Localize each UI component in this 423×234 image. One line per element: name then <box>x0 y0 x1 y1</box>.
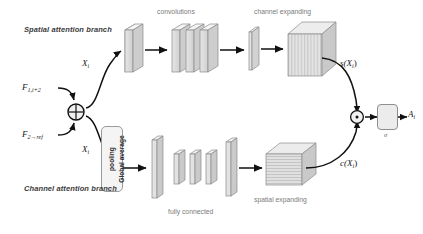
caption-convolutions: convolutions <box>157 8 195 15</box>
arrow-input-top <box>58 88 74 100</box>
spatial-output-head: s(X <box>340 58 352 68</box>
input-top-label: F1,i+2 <box>22 82 41 93</box>
spatial-expanded-box <box>266 143 316 185</box>
output-sub: i <box>414 114 416 120</box>
sum-node-glyph <box>68 104 84 120</box>
spatial-conv-slab-stack <box>172 24 218 72</box>
sigmoid-label: σ <box>384 131 387 138</box>
signal-x-bottom-label: Xi <box>82 144 89 155</box>
caption-spatial-expanding: spatial expanding <box>254 196 307 203</box>
channel-output-tail: ) <box>354 158 357 168</box>
fc-bar-short-stack <box>174 150 217 184</box>
input-bottom-sub: 2→ref <box>28 134 43 140</box>
product-node-glyph <box>351 111 364 124</box>
spatial-output-tail: ) <box>354 58 357 68</box>
channel-output-head: c(X <box>340 158 353 168</box>
diagram-vector-layer <box>0 0 423 234</box>
spatial-branch-title: Spatial attention branch <box>24 25 112 34</box>
caption-fully-connected: fully connected <box>168 208 213 215</box>
signal-x-top-label: Xi <box>82 58 89 69</box>
diagram-canvas: σ Global average pooling Spatial attenti… <box>0 0 423 234</box>
signal-x-bottom-sub: i <box>88 149 90 155</box>
channel-output-label: c(Xi) <box>340 158 357 169</box>
arrow-sum-to-spatial <box>86 51 121 108</box>
channel-expanded-cube <box>288 22 336 76</box>
spatial-attention-map-slab <box>249 27 259 70</box>
spatial-input-slab <box>125 24 143 72</box>
channel-branch-title: Channel attention branch <box>24 184 117 193</box>
gap-line-1: Global average <box>118 129 126 189</box>
fc-bar-tall-2 <box>226 138 237 196</box>
caption-channel-expanding: channel expanding <box>254 8 311 15</box>
input-bottom-label: F2→ref <box>22 129 43 140</box>
sigmoid-block <box>377 104 398 130</box>
global-average-pooling-block: Global average pooling <box>101 126 123 192</box>
output-label: Ai <box>408 109 415 120</box>
fc-bar-tall-1 <box>152 136 163 198</box>
spatial-output-label: s(Xi) <box>340 58 357 69</box>
signal-x-top-sub: i <box>88 63 90 69</box>
arrow-input-bottom <box>58 123 74 135</box>
input-top-sub: 1,i+2 <box>28 87 41 93</box>
gap-line-2: pooling <box>108 129 116 189</box>
